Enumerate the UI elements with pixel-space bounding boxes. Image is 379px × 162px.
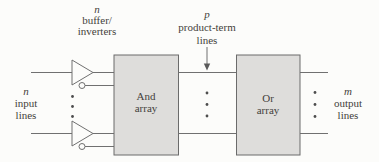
inverter-bubble-bottom <box>79 144 85 150</box>
input-label-line1: input <box>15 97 38 109</box>
pla-block-diagram: n buffer/ inverters p product-term lines… <box>0 0 379 162</box>
input-label-line2: lines <box>15 109 38 121</box>
buffer-triangle-top <box>72 60 93 85</box>
or-array-label-line1: Or <box>257 92 280 104</box>
output-label-line1: output <box>334 97 362 109</box>
pointer-arrowhead-icon <box>204 64 210 71</box>
product-term-label: p product-term lines <box>178 8 235 47</box>
ellipsis-dots-outputs <box>314 91 317 118</box>
product-term-label-line2: lines <box>178 34 235 47</box>
and-array-label-line2: array <box>135 102 158 114</box>
buffer-inverters-label: n buffer/ inverters <box>78 4 116 37</box>
ellipsis-dots-inputs <box>71 95 74 118</box>
or-array-label-line2: array <box>257 104 280 116</box>
input-lines-label: n input lines <box>15 85 38 121</box>
product-term-label-line1: product-term <box>178 21 235 34</box>
and-array-label: And array <box>135 90 158 114</box>
ellipsis-dots-product-terms <box>206 92 209 118</box>
output-label-line2: lines <box>334 109 362 121</box>
or-array-label: Or array <box>257 92 280 116</box>
output-count-variable: m <box>334 85 362 97</box>
input-count-variable: n <box>15 85 38 97</box>
buffer-label-line2: inverters <box>78 26 116 37</box>
buffer-triangle-bottom <box>72 121 93 146</box>
output-lines-label: m output lines <box>334 85 362 121</box>
and-array-label-line1: And <box>135 90 158 102</box>
product-term-count-variable: p <box>178 8 235 21</box>
inverter-bubble-top <box>79 83 85 89</box>
